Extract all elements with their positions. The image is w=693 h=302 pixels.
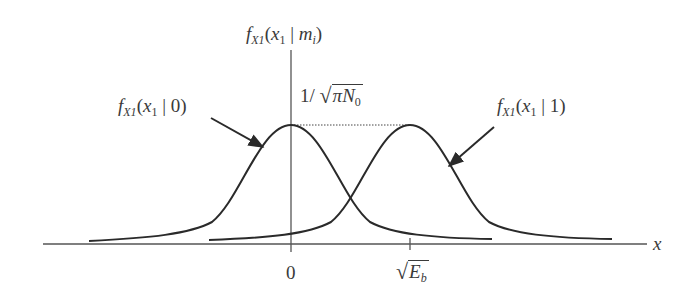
arrow-to-m1-curve	[449, 127, 494, 166]
x-tick-label-sqrt-eb: √Eb	[396, 260, 429, 284]
peak-label-prefix: 1/	[300, 85, 320, 106]
x-axis-label: x	[653, 234, 661, 253]
m0-label-cond: | 0)	[157, 95, 186, 116]
pdf-curve-m1	[209, 125, 612, 240]
sqrt-eb: √Eb	[396, 260, 429, 284]
peak-value-label: 1/ √πN0	[300, 84, 363, 108]
eb-sub: b	[421, 271, 427, 285]
curve-m1-label: fX1(x1 | 1)	[497, 96, 566, 118]
gaussian-pdf-diagram	[0, 0, 693, 302]
y-axis-label: fX1(x1 | mi)	[246, 24, 322, 46]
y-label-sub: X1	[251, 33, 264, 47]
eb-radicand: E	[409, 261, 421, 282]
arrow-to-m0-curve	[211, 118, 263, 147]
sqrt-pi-n0: √πN0	[320, 84, 363, 108]
y-label-m: m	[299, 23, 313, 44]
m0-label-sub: X1	[123, 105, 136, 119]
m1-label-sub: X1	[502, 105, 515, 119]
m1-label-cond: | 1)	[536, 95, 565, 116]
peak-label-radicand: πN	[333, 85, 355, 106]
peak-label-radicand-sub: 0	[355, 95, 361, 109]
curve-m0-label: fX1(x1 | 0)	[118, 96, 187, 118]
x-tick-label-0: 0	[286, 263, 296, 282]
